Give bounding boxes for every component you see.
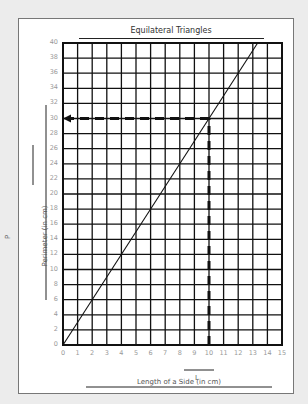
y-variable: P xyxy=(4,235,12,239)
x-tick-label: 6 xyxy=(144,349,158,357)
x-tick-label: 4 xyxy=(114,349,128,357)
x-axis-label: Length of a Side (in cm) xyxy=(86,378,272,386)
y-tick-label: 4 xyxy=(38,310,58,318)
y-tick-label: 34 xyxy=(38,83,58,91)
y-tick-label: 40 xyxy=(38,38,58,46)
x-tick-label: 11 xyxy=(217,349,231,357)
x-tick-label: 5 xyxy=(129,349,143,357)
x-tick-label: 3 xyxy=(100,349,114,357)
y-tick-label: 26 xyxy=(38,144,58,152)
x-tick-label: 15 xyxy=(275,349,289,357)
x-tick-label: 2 xyxy=(85,349,99,357)
y-tick-label: 24 xyxy=(38,159,58,167)
y-tick-label: 32 xyxy=(38,98,58,106)
y-axis-label: Perimeter (in cm) xyxy=(41,176,49,296)
y-tick-label: 2 xyxy=(38,325,58,333)
arrow-head-icon xyxy=(63,115,71,123)
x-tick-label: 14 xyxy=(260,349,274,357)
x-tick-label: 8 xyxy=(173,349,187,357)
x-tick-label: 9 xyxy=(187,349,201,357)
x-tick-label: 12 xyxy=(231,349,245,357)
x-tick-label: 1 xyxy=(71,349,85,357)
x-tick-label: 0 xyxy=(56,349,70,357)
y-tick-label: 0 xyxy=(38,340,58,348)
y-tick-label: 38 xyxy=(38,53,58,61)
x-tick-label: 13 xyxy=(246,349,260,357)
x-tick-label: 10 xyxy=(202,349,216,357)
y-tick-label: 30 xyxy=(38,114,58,122)
y-tick-label: 36 xyxy=(38,68,58,76)
y-tick-label: 28 xyxy=(38,129,58,137)
x-tick-label: 7 xyxy=(158,349,172,357)
